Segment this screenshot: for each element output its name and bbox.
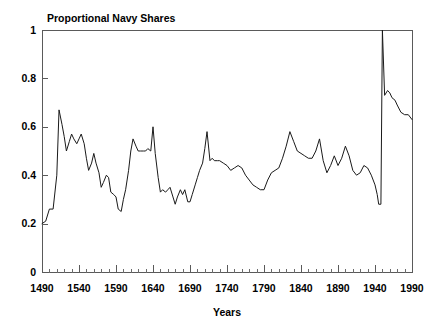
y-tick-label-1: 0.2 — [21, 217, 36, 229]
x-tick-label-10: 1990 — [400, 282, 424, 294]
navy-shares-line-chart: 00.20.40.60.81 1490159016901790189019901… — [0, 0, 440, 323]
y-tick-label-2: 0.4 — [21, 169, 36, 181]
y-tick-label-3: 0.6 — [21, 120, 36, 132]
chart-container: 00.20.40.60.81 1490159016901790189019901… — [0, 0, 440, 323]
y-tick-label-4: 0.8 — [21, 72, 36, 84]
x-tick-label-3: 1640 — [141, 282, 165, 294]
x-tick-label-2: 1590 — [104, 282, 128, 294]
x-tick-label-9: 1940 — [363, 282, 387, 294]
x-tick-label-8: 1890 — [326, 282, 350, 294]
y-tick-label-5: 1 — [30, 24, 36, 36]
x-tick-label-1: 1540 — [67, 282, 91, 294]
x-tick-label-4: 1690 — [178, 282, 202, 294]
x-tick-label-6: 1790 — [252, 282, 276, 294]
x-tick-label-7: 1840 — [289, 282, 313, 294]
x-axis-tick-labels: 1490159016901790189019901540164017401840… — [30, 282, 424, 294]
x-tick-label-0: 1490 — [30, 282, 54, 294]
x-tick-label-5: 1740 — [215, 282, 239, 294]
chart-title: Proportional Navy Shares — [47, 12, 176, 24]
y-tick-label-0: 0 — [30, 266, 36, 278]
x-axis-label: Years — [213, 306, 241, 318]
